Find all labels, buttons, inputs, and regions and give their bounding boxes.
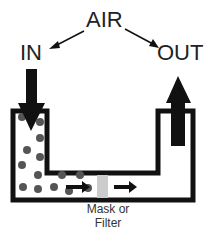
air-label: AIR bbox=[86, 7, 123, 33]
particle-icon bbox=[50, 183, 58, 191]
particle-icon bbox=[36, 153, 44, 161]
particle-icon bbox=[34, 171, 42, 179]
air-to-out-arrow-icon bbox=[125, 29, 159, 48]
in-label: IN bbox=[20, 40, 42, 66]
particle-icon bbox=[36, 118, 44, 126]
particle-icon bbox=[76, 171, 84, 179]
particle-icon bbox=[19, 183, 27, 191]
flow-arrow-icon bbox=[114, 181, 137, 193]
filter-label-line1: Mask or bbox=[72, 202, 144, 216]
particle-icon bbox=[34, 185, 42, 193]
particle-icon bbox=[23, 146, 31, 154]
filter-label: Mask or Filter bbox=[72, 202, 144, 230]
air-to-in-arrow-icon bbox=[49, 31, 84, 49]
out-label: OUT bbox=[157, 40, 203, 66]
particle-icon bbox=[18, 161, 26, 169]
particle-icon bbox=[36, 134, 44, 142]
filter-label-line2: Filter bbox=[72, 216, 144, 230]
mask-filter bbox=[97, 175, 108, 198]
particle-icon bbox=[58, 171, 66, 179]
